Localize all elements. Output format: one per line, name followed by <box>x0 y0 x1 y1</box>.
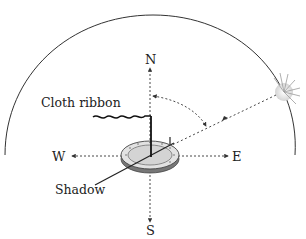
label-cloth-ribbon: Cloth ribbon <box>41 95 121 110</box>
label-west: W <box>52 149 66 164</box>
label-north: N <box>145 52 156 67</box>
sun-icon <box>274 73 300 104</box>
sundial-diagram: N S E W Cloth ribbon Shadow <box>0 0 306 239</box>
label-south: S <box>146 223 155 238</box>
label-east: E <box>232 149 242 164</box>
label-shadow: Shadow <box>55 182 106 197</box>
angle-arc <box>153 96 206 126</box>
cloth-ribbon <box>93 116 151 118</box>
